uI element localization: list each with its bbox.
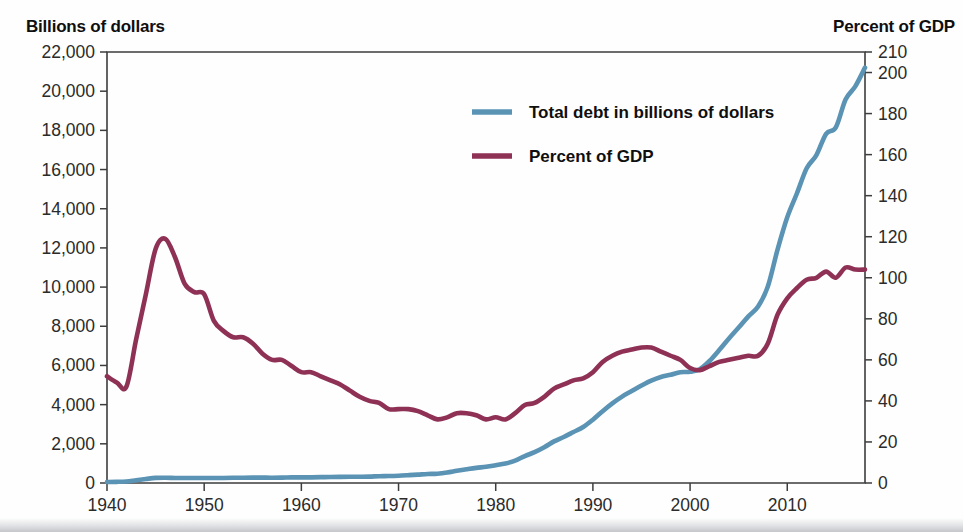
x-tick-label: 1950 [185, 495, 224, 515]
right-tick-label: 140 [878, 186, 907, 206]
left-tick-label: 20,000 [41, 81, 95, 101]
right-tick-label: 160 [878, 145, 907, 165]
legend-label: Percent of GDP [529, 147, 654, 166]
right-tick-label: 180 [878, 104, 907, 124]
right-tick-label: 0 [878, 473, 888, 493]
x-axis-ticks: 19401950196019701980199020002010 [88, 483, 807, 515]
x-tick-label: 1940 [88, 495, 127, 515]
left-tick-label: 0 [85, 473, 95, 493]
left-tick-label: 8,000 [51, 316, 95, 336]
right-tick-label: 100 [878, 268, 907, 288]
left-tick-label: 6,000 [51, 355, 95, 375]
x-tick-label: 2000 [671, 495, 710, 515]
left-tick-label: 18,000 [41, 120, 95, 140]
right-axis-ticks: 020406080100120140160180200210 [865, 42, 907, 493]
x-tick-label: 1990 [573, 495, 612, 515]
right-tick-label: 20 [878, 432, 898, 452]
right-tick-label: 210 [878, 42, 907, 62]
chart-legend: Total debt in billions of dollarsPercent… [472, 103, 774, 166]
x-tick-label: 2010 [768, 495, 807, 515]
x-tick-label: 1970 [379, 495, 418, 515]
left-tick-label: 10,000 [41, 277, 95, 297]
left-tick-label: 2,000 [51, 434, 95, 454]
x-tick-label: 1980 [476, 495, 515, 515]
left-tick-label: 14,000 [41, 199, 95, 219]
right-tick-label: 80 [878, 309, 898, 329]
right-tick-label: 60 [878, 350, 898, 370]
right-tick-label: 200 [878, 63, 907, 83]
debt-gdp-line-chart: 02,0004,0006,0008,00010,00012,00014,0001… [0, 0, 963, 532]
right-tick-label: 120 [878, 227, 907, 247]
chart-figure: Billions of dollars Percent of GDP 02,00… [0, 0, 963, 532]
legend-label: Total debt in billions of dollars [529, 103, 774, 122]
left-tick-label: 22,000 [41, 42, 95, 62]
scan-edge-band [0, 518, 963, 532]
x-tick-label: 1960 [282, 495, 321, 515]
left-tick-label: 16,000 [41, 160, 95, 180]
left-axis-ticks: 02,0004,0006,0008,00010,00012,00014,0001… [41, 42, 107, 493]
left-tick-label: 4,000 [51, 395, 95, 415]
series-line-percent-of-gdp [107, 238, 865, 419]
left-tick-label: 12,000 [41, 238, 95, 258]
right-tick-label: 40 [878, 391, 898, 411]
series-layer [107, 68, 865, 482]
